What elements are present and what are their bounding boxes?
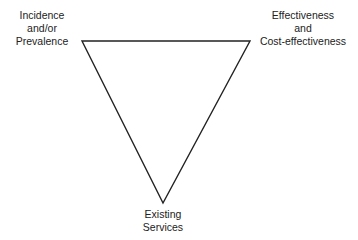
node-label-effectiveness: Effectiveness and Cost-effectiveness: [252, 9, 354, 48]
node-label-incidence-line-1: Incidence: [6, 9, 78, 22]
node-label-existing-services: Existing Services: [118, 208, 208, 234]
node-label-existing-services-line-1: Existing: [118, 208, 208, 221]
node-label-existing-services-line-2: Services: [118, 221, 208, 234]
diagram-canvas: Incidence and/or Prevalence Effectivenes…: [0, 0, 358, 240]
node-label-effectiveness-line-1: Effectiveness: [252, 9, 354, 22]
node-label-incidence-line-2: and/or: [6, 22, 78, 35]
node-label-incidence-line-3: Prevalence: [6, 35, 78, 48]
node-label-incidence: Incidence and/or Prevalence: [6, 9, 78, 48]
node-label-effectiveness-line-2: and: [252, 22, 354, 35]
triangle-outline: [82, 41, 250, 203]
node-label-effectiveness-line-3: Cost-effectiveness: [252, 35, 354, 48]
